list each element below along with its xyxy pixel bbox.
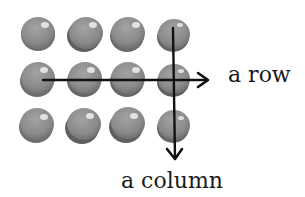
ball-r1-c2: [67, 17, 103, 52]
ball-r3-c1: [19, 108, 54, 143]
row-column-diagram: a row a column: [0, 0, 305, 197]
ball-r3-c3: [109, 107, 145, 143]
ball-r3-c2: [65, 108, 101, 144]
ball-r1-c1: [21, 17, 55, 51]
ball-r1-c3: [110, 17, 145, 52]
column-label: a column: [121, 168, 223, 193]
row-label: a row: [228, 62, 291, 87]
